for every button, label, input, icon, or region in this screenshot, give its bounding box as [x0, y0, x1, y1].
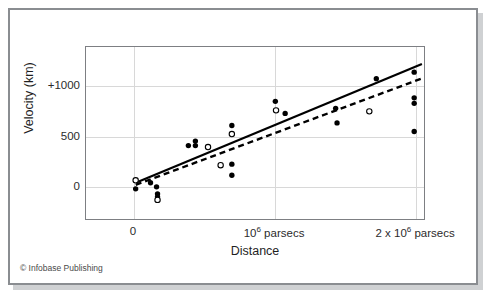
- solid-fit-line: [136, 64, 422, 183]
- x-tick-label: 0: [130, 225, 136, 237]
- y-tick-label-column: +10005000: [26, 46, 80, 220]
- data-point-open: [273, 108, 278, 113]
- y-tick-label: 500: [61, 130, 80, 142]
- data-point-open: [367, 109, 372, 114]
- data-point-open: [205, 144, 210, 149]
- screenshot-root: Velocity (km) +10005000 0106 parsecs2 x …: [0, 0, 495, 298]
- x-tick-label: 106 parsecs: [244, 225, 305, 239]
- data-point-filled: [186, 143, 191, 148]
- data-point-filled: [334, 120, 339, 125]
- data-point-filled: [148, 180, 153, 185]
- dashed-fit-line: [136, 78, 423, 185]
- data-point-filled: [154, 184, 159, 189]
- x-tick-label-row: 0106 parsecs2 x 106 parsecs: [85, 225, 425, 243]
- data-point-filled: [411, 129, 416, 134]
- data-point-filled: [229, 162, 234, 167]
- x-tick-label: 2 x 106 parsecs: [375, 225, 454, 239]
- data-point-open: [229, 131, 234, 136]
- plot-area: [85, 46, 425, 220]
- y-tick-label: +1000: [48, 79, 80, 91]
- data-point-open: [218, 163, 223, 168]
- data-point-filled: [374, 76, 379, 81]
- copyright-credit: © Infobase Publishing: [20, 263, 103, 273]
- data-point-filled: [411, 69, 416, 74]
- data-point-filled: [333, 106, 338, 111]
- data-point-filled: [411, 95, 416, 100]
- chart-container: Velocity (km) +10005000 0106 parsecs2 x …: [8, 8, 478, 285]
- x-axis-title: Distance: [85, 244, 425, 258]
- frame-shadow-right: [478, 13, 483, 290]
- data-point-open: [155, 197, 160, 202]
- data-point-filled: [282, 111, 287, 116]
- data-point-filled: [273, 99, 278, 104]
- data-point-filled: [229, 173, 234, 178]
- data-point-filled: [133, 186, 138, 191]
- frame-shadow-bottom: [13, 285, 483, 290]
- y-tick-label: 0: [74, 180, 80, 192]
- data-point-filled: [193, 143, 198, 148]
- data-point-filled: [229, 123, 234, 128]
- data-point-filled: [411, 101, 416, 106]
- data-point-open: [133, 178, 138, 183]
- plot-graphics-layer: [86, 47, 424, 219]
